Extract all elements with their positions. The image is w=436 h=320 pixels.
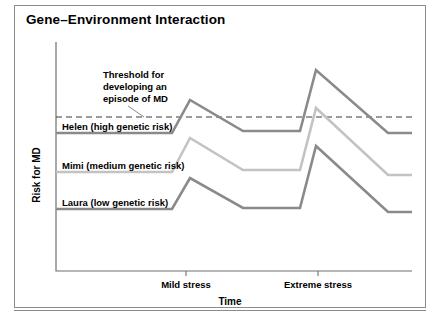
caption-divider xyxy=(14,310,426,311)
threshold-label-line-3: episode of MD xyxy=(103,93,168,104)
y-axis-title: Risk for MD xyxy=(31,147,42,203)
threshold-label-line-1: Threshold for xyxy=(103,69,165,80)
series-label-mimi: Mimi (medium genetic risk) xyxy=(62,160,184,171)
x-axis-title: Time xyxy=(218,296,242,307)
chart-canvas: Threshold for developing an episode of M… xyxy=(0,0,436,320)
series-label-laura: Laura (low genetic risk) xyxy=(62,197,168,208)
x-tick-label-mild-stress: Mild stress xyxy=(161,279,211,290)
figure-container: Gene–Environment Interaction Threshold f… xyxy=(0,0,436,320)
x-tick-label-extreme-stress: Extreme stress xyxy=(284,279,352,290)
threshold-label-line-2: developing an xyxy=(103,81,167,92)
series-label-helen: Helen (high genetic risk) xyxy=(62,121,172,132)
threshold-group: Threshold for developing an episode of M… xyxy=(56,69,412,117)
x-axis-tick-labels: Mild stress Extreme stress xyxy=(161,279,352,290)
x-axis-tick-marks xyxy=(186,271,318,276)
threshold-leader-line xyxy=(128,106,144,117)
